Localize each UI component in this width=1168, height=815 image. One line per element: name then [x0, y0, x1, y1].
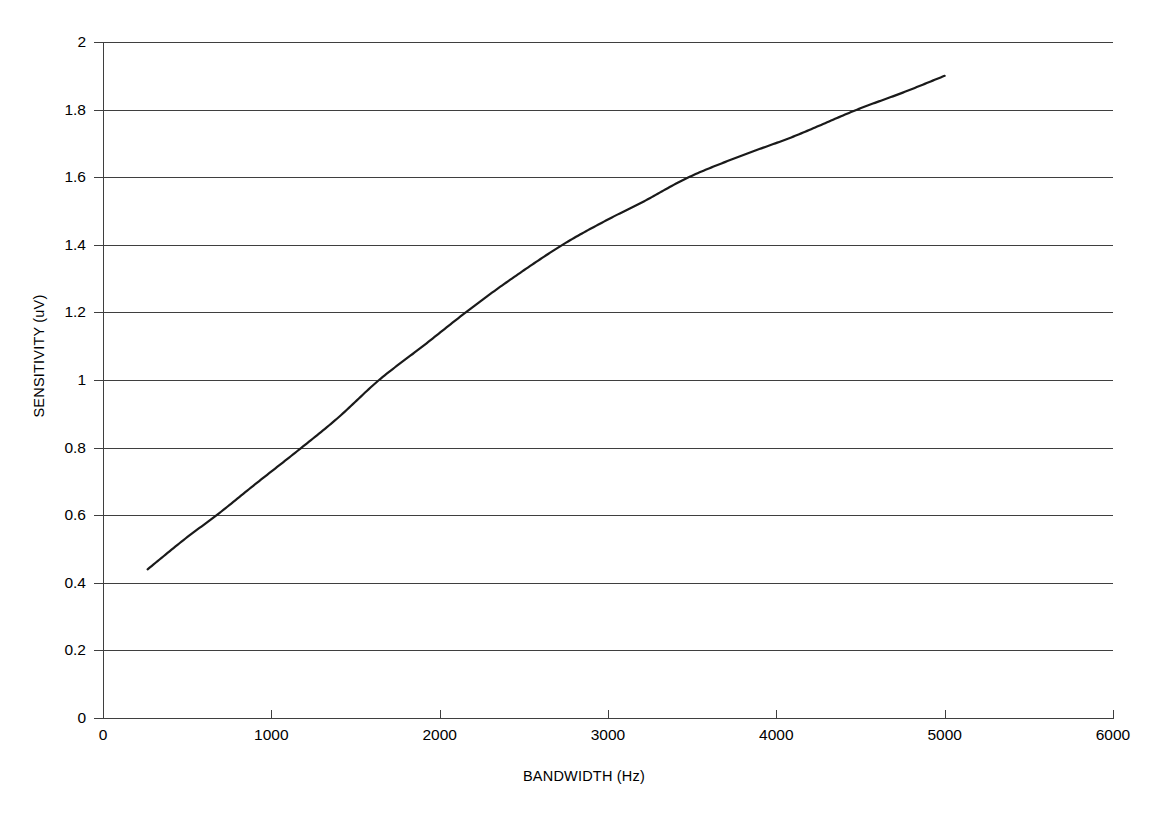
- y-axis-tick-label: 1.2: [0, 304, 86, 320]
- x-axis-tick-label: 2000: [380, 726, 500, 744]
- gridline-y: [103, 650, 1113, 651]
- y-axis-tick-label: 2: [0, 34, 86, 50]
- x-axis-tick: [945, 710, 946, 719]
- y-axis-tick-label: 1: [0, 372, 86, 388]
- y-axis-tick-label: 1.4: [0, 237, 86, 253]
- chart-container: BANDWIDTH (Hz) SENSITIVITY (uV) 00.20.40…: [0, 0, 1168, 815]
- x-axis-tick: [440, 710, 441, 719]
- y-axis-tick: [94, 515, 103, 516]
- y-axis-tick: [94, 448, 103, 449]
- y-axis-tick-label: 0.8: [0, 440, 86, 456]
- y-axis-tick-label: 1.8: [0, 102, 86, 118]
- gridline-y: [103, 110, 1113, 111]
- gridline-y: [103, 312, 1113, 313]
- y-axis-line: [103, 42, 104, 719]
- y-axis-tick-label: 1.6: [0, 169, 86, 185]
- gridline-y: [103, 515, 1113, 516]
- x-axis-tick: [776, 710, 777, 719]
- y-axis-tick-label: 0: [0, 710, 86, 726]
- y-axis-tick-label: 0.2: [0, 642, 86, 658]
- y-axis-tick: [94, 42, 103, 43]
- y-axis-tick: [94, 583, 103, 584]
- x-axis-tick-label: 4000: [716, 726, 836, 744]
- x-axis-tick: [103, 710, 104, 719]
- gridline-y: [103, 245, 1113, 246]
- x-axis-title: BANDWIDTH (Hz): [0, 768, 1168, 784]
- gridline-y: [103, 177, 1113, 178]
- gridline-y: [103, 583, 1113, 584]
- y-axis-tick: [94, 650, 103, 651]
- gridline-y: [103, 42, 1113, 43]
- y-axis-tick: [94, 380, 103, 381]
- x-axis-tick-label: 1000: [211, 726, 331, 744]
- gridline-y: [103, 448, 1113, 449]
- y-axis-tick: [94, 110, 103, 111]
- y-axis-tick-label: 0.4: [0, 575, 86, 591]
- y-axis-tick: [94, 245, 103, 246]
- y-axis-tick: [94, 312, 103, 313]
- x-axis-tick: [271, 710, 272, 719]
- x-axis-tick-label: 0: [43, 726, 163, 744]
- plot-area: [103, 42, 1113, 718]
- y-axis-tick: [94, 177, 103, 178]
- x-axis-tick-label: 6000: [1053, 726, 1168, 744]
- y-axis-tick-label: 0.6: [0, 507, 86, 523]
- x-axis-tick: [1113, 710, 1114, 719]
- x-axis-tick: [608, 710, 609, 719]
- gridline-y: [103, 380, 1113, 381]
- y-axis-tick: [94, 718, 103, 719]
- x-axis-tick-label: 3000: [548, 726, 668, 744]
- x-axis-tick-label: 5000: [885, 726, 1005, 744]
